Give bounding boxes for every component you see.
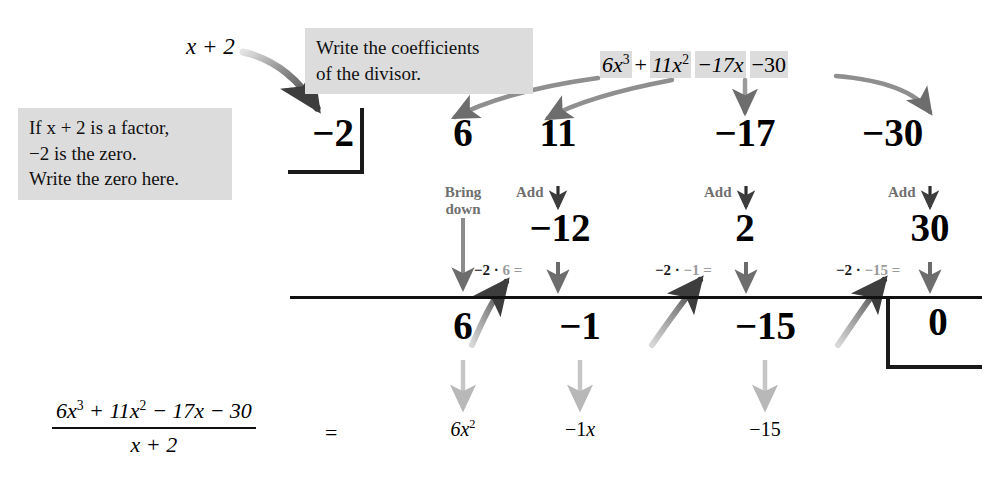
coefficient-cell-4: −30 (862, 110, 992, 155)
dividend-term-4: −30 (750, 51, 788, 78)
synthetic-division-figure: x + 2 Write the coefficients of the divi… (0, 0, 992, 485)
answer-term-1-text: 6x (450, 418, 469, 440)
result-cell-1: 6 (423, 303, 503, 348)
numerator-exp-a: 3 (77, 398, 84, 413)
dividend-term-2-exponent: 2 (682, 52, 689, 67)
answer-term-1: 6x2 (423, 418, 503, 441)
add-label-3: Add (888, 184, 916, 201)
divisor-expression: x + 2 (186, 34, 235, 60)
callout-coefficients-line2: of the divisor. (316, 61, 522, 87)
multiply-label-1: −2 · 6 = (474, 262, 522, 279)
dividend-term-2-text: 11x (652, 52, 682, 77)
callout-zero-note-line1: If x + 2 is a factor, (29, 115, 221, 141)
callout-coefficients-line1: Write the coefficients (316, 35, 522, 61)
numerator-part-c: − 17x − 30 (146, 398, 251, 423)
arrow-coef-4 (836, 76, 930, 112)
product-cell-3: 30 (884, 205, 976, 250)
coefficient-cell-1: 6 (423, 110, 503, 155)
result-cell-2: −1 (520, 303, 640, 348)
bring-down-label-line1: Bring (422, 184, 504, 201)
zero-bracket: −2 (288, 108, 364, 174)
answer-term-2-coef: −1 (565, 418, 586, 440)
multiply-label-3-lite: −15 = (865, 262, 901, 278)
callout-coefficients: Write the coefficients of the divisor. (305, 28, 533, 94)
answer-term-3: −15 (725, 418, 805, 441)
zero-value: −2 (288, 110, 360, 155)
dividend-plus: + (632, 52, 650, 77)
multiply-label-3-dark: −2 · (836, 262, 861, 278)
arrow-multiply-3 (838, 280, 884, 345)
callout-zero-note-line2: −2 is the zero. (29, 141, 221, 167)
result-cell-3: −15 (688, 303, 843, 348)
bottom-equals-sign: = (325, 420, 337, 446)
dividend-term-1: 6x3 (600, 51, 632, 78)
answer-term-2: −1x (540, 418, 620, 441)
multiply-label-2-lite: −1 = (684, 262, 712, 278)
add-label-1: Add (516, 184, 544, 201)
add-label-2: Add (704, 184, 732, 201)
dividend-term-1-text: 6x (602, 52, 623, 77)
remainder-value: 0 (908, 299, 968, 344)
bottom-fraction-denominator: x + 2 (52, 429, 256, 458)
multiply-label-3: −2 · −15 = (836, 262, 900, 279)
multiply-label-1-dark: −2 · (474, 262, 499, 278)
answer-term-1-exponent: 2 (469, 417, 475, 431)
numerator-part-a: 6x (56, 398, 77, 423)
dividend-term-3: −17x (695, 51, 746, 78)
callout-zero-note-line3: Write the zero here. (29, 166, 221, 192)
bottom-fraction-numerator: 6x3 + 11x2 − 17x − 30 (52, 398, 256, 427)
multiply-label-1-lite: 6 = (503, 262, 523, 278)
numerator-part-b: + 11x (84, 398, 140, 423)
coefficient-cell-3: −17 (680, 110, 810, 155)
coefficient-cell-2: 11 (513, 110, 603, 155)
dividend-term-1-exponent: 3 (623, 52, 630, 67)
bottom-fraction: 6x3 + 11x2 − 17x − 30 x + 2 (52, 398, 256, 458)
divisor-expression-text: x + 2 (186, 34, 235, 59)
product-cell-2: 2 (700, 205, 790, 250)
dividend-term-2: 11x2 (650, 51, 691, 78)
callout-zero-note: If x + 2 is a factor, −2 is the zero. Wr… (18, 108, 232, 200)
multiply-label-2-dark: −2 · (655, 262, 680, 278)
product-cell-1: −12 (490, 205, 630, 250)
denominator-text: x + 2 (131, 432, 178, 457)
multiply-label-2: −2 · −1 = (655, 262, 712, 279)
answer-term-2-var: x (586, 418, 595, 440)
dividend-expression: 6x3+11x2−17x−30 (600, 52, 788, 78)
division-rule (290, 296, 982, 299)
remainder-box: 0 (886, 299, 982, 369)
dividend-term-3-text: −17x (697, 52, 744, 77)
